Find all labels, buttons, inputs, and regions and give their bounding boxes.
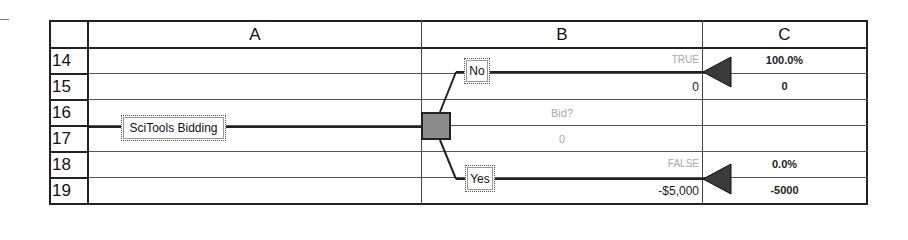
branch-yes-flag: FALSE xyxy=(600,158,699,169)
root-node-label[interactable]: SciTools Bidding xyxy=(121,115,226,141)
branch-yes-payoff: -$5,000 xyxy=(600,184,699,198)
branch-yes-end-value: -5000 xyxy=(703,184,866,196)
decision-value: 0 xyxy=(422,133,702,145)
branch-label-no[interactable]: No xyxy=(464,58,490,84)
branch-no-probability: 100.0% xyxy=(703,54,866,66)
branch-no-flag: TRUE xyxy=(600,54,699,65)
branch-label-yes[interactable]: Yes xyxy=(465,165,495,192)
branch-no-payoff: 0 xyxy=(600,80,699,94)
branch-no-end-value: 0 xyxy=(703,80,866,92)
branch-yes-probability: 0.0% xyxy=(703,158,866,170)
decision-name: Bid? xyxy=(422,107,702,119)
